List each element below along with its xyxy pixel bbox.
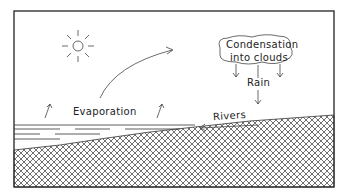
label-rain: Rain xyxy=(247,77,270,88)
land-hatch xyxy=(14,115,334,187)
label-into-clouds: into clouds xyxy=(230,52,288,63)
sun-icon xyxy=(62,30,94,62)
label-rivers: Rivers xyxy=(213,109,247,122)
label-condensation: Condensation xyxy=(226,39,298,50)
water-cycle-diagram xyxy=(0,0,354,196)
label-evaporation: Evaporation xyxy=(73,106,137,117)
